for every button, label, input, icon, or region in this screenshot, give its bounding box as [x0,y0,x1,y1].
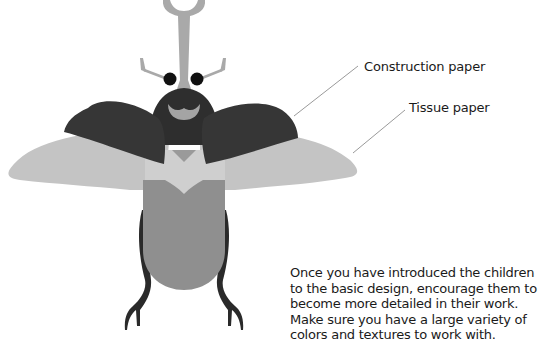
construction-paper-label: Construction paper [364,59,485,74]
abdomen [143,180,225,290]
instruction-caption: Once you have introduced the children to… [290,265,549,343]
tissue-paper-label: Tissue paper [409,100,489,115]
right-eye [191,73,204,86]
tissue-paper-leader-line [353,110,405,153]
construction-paper-leader-line [294,66,358,116]
left-eye [164,73,177,86]
